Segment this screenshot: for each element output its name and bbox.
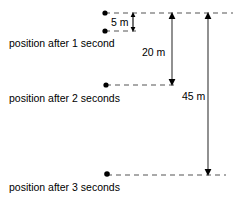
dimension-label-45m: 45 m [181, 91, 206, 102]
position-dot-t0 [102, 10, 107, 15]
dimension-label-20m: 20 m [141, 47, 166, 58]
position-dot-t3 [104, 171, 110, 177]
dimension-arrow-5m [131, 12, 136, 32]
position-label-t1: position after 1 second [9, 38, 115, 49]
dimension-label-5m: 5 m [110, 17, 130, 28]
dimension-arrow-20m [169, 12, 176, 86]
position-dot-t1 [102, 28, 107, 33]
freefall-diagram: position after 1 second position after 2… [0, 0, 237, 203]
position-dot-t2 [103, 82, 108, 87]
position-label-t3: position after 3 seconds [9, 182, 120, 193]
position-label-t2: position after 2 seconds [9, 93, 120, 104]
